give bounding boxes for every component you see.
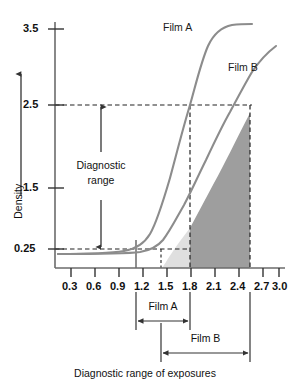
ytick-label-0-25: 0.25: [14, 243, 35, 254]
diagnostic-range-label-line1: Diagnostic: [68, 160, 134, 171]
shaded-region: [162, 105, 250, 268]
xtick-label-0-3: 0.3: [62, 281, 77, 292]
ytick-label-1-5: 1.5: [23, 182, 38, 193]
film-a-range-label: Film A: [136, 301, 190, 312]
series-label-film-a: Film A: [163, 22, 192, 33]
y-axis-title: Density: [13, 171, 24, 231]
density-exposure-chart: [0, 0, 290, 383]
diagnostic-range-label-line2: range: [68, 175, 134, 186]
xtick-label-3-0: 3.0: [272, 281, 287, 292]
xtick-label-0-6: 0.6: [86, 281, 101, 292]
chart-figure: 3.5 2.5 1.5 0.25 0.3 0.6 0.9 1.2 1.5 1.8…: [0, 0, 290, 383]
xtick-label-1-8: 1.8: [182, 281, 197, 292]
xtick-label-2-4: 2.4: [230, 281, 245, 292]
figure-caption: Diagnostic range of exposures: [0, 368, 290, 379]
film-b-range-label: Film B: [161, 333, 250, 344]
xtick-label-2-7: 2.7: [254, 281, 269, 292]
xtick-label-0-9: 0.9: [110, 281, 125, 292]
ytick-label-2-5: 2.5: [23, 99, 38, 110]
ytick-label-3-5: 3.5: [23, 23, 38, 34]
x-ticks: [71, 268, 279, 277]
xtick-label-2-1: 2.1: [206, 281, 221, 292]
xtick-label-1-2: 1.2: [134, 281, 149, 292]
y-ticks: [48, 29, 64, 249]
series-label-film-b: Film B: [228, 62, 258, 73]
xtick-label-1-5: 1.5: [158, 281, 173, 292]
